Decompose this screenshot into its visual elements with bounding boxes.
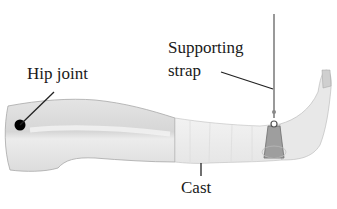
strap-leader-line: [221, 72, 273, 89]
thigh: [5, 99, 175, 171]
cast-label: Cast: [181, 178, 211, 197]
foot: [280, 70, 331, 160]
leg-traction-diagram: Hip joint Supporting strap Cast: [0, 0, 337, 209]
diagram-canvas: [0, 0, 337, 209]
supporting-strap-label-line2: strap: [168, 61, 201, 80]
supporting-strap-label-line1: Supporting: [168, 38, 244, 57]
hip-joint-label: Hip joint: [27, 64, 88, 83]
